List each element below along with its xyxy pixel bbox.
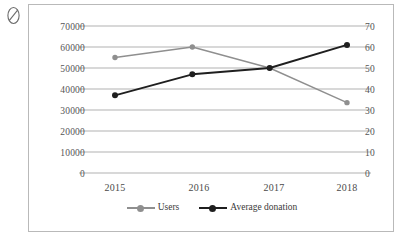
chart-legend: Users Average donation — [29, 203, 395, 213]
right-axis-tick-0: 0 — [365, 169, 391, 179]
left-axis-tick-30000: 30000 — [37, 106, 85, 116]
legend-label-average-donation: Average donation — [230, 203, 297, 213]
legend-item-average-donation[interactable]: Average donation — [199, 203, 297, 213]
line-chart-canvas — [29, 5, 395, 233]
x-axis-label-2018: 2018 — [317, 182, 377, 193]
plot-area: 70000 60000 50000 40000 30000 20000 1000… — [29, 5, 393, 231]
oval-slash-mark — [6, 6, 21, 25]
right-axis-tick-60: 60 — [365, 43, 391, 53]
right-axis-tick-30: 30 — [365, 106, 391, 116]
left-axis-tick-50000: 50000 — [37, 64, 85, 74]
left-axis-tick-10000: 10000 — [37, 148, 85, 158]
x-axis-label-2017: 2017 — [244, 182, 304, 193]
legend-item-users[interactable]: Users — [127, 203, 180, 213]
right-axis-tick-50: 50 — [365, 64, 391, 74]
legend-label-users: Users — [158, 203, 180, 213]
right-axis-tick-10: 10 — [365, 148, 391, 158]
right-axis-tick-20: 20 — [365, 127, 391, 137]
x-axis-label-2016: 2016 — [169, 182, 229, 193]
screenshot-root: 70000 60000 50000 40000 30000 20000 1000… — [0, 0, 401, 240]
right-axis-tick-40: 40 — [365, 85, 391, 95]
left-axis-tick-40000: 40000 — [37, 85, 85, 95]
x-axis-label-2015: 2015 — [85, 182, 145, 193]
left-axis-tick-20000: 20000 — [37, 127, 85, 137]
legend-marker-icon-average-donation — [199, 203, 227, 213]
left-axis-tick-60000: 60000 — [37, 43, 85, 53]
chart-frame: 70000 60000 50000 40000 30000 20000 1000… — [28, 4, 394, 232]
right-axis-tick-70: 70 — [365, 22, 391, 32]
left-axis-tick-0: 0 — [37, 169, 85, 179]
legend-marker-icon-users — [127, 203, 155, 213]
left-axis-tick-70000: 70000 — [37, 22, 85, 32]
